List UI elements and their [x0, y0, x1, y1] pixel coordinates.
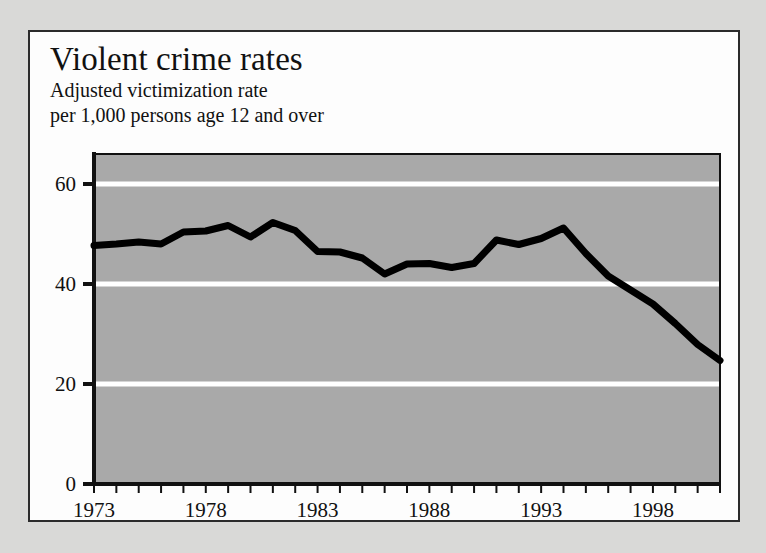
y-axis-tick-labels: 0204060 [55, 172, 76, 496]
figure-card: Violent crime rates Adjusted victimizati… [28, 30, 740, 522]
x-tick-label: 1988 [408, 498, 450, 522]
plot-area: 0204060 197319781983198819931998 [30, 32, 742, 524]
x-tick-label: 1973 [73, 498, 115, 522]
x-tick-label: 1993 [520, 498, 562, 522]
y-tick-label: 20 [55, 372, 76, 396]
x-tick-label: 1998 [632, 498, 674, 522]
y-tick-label: 60 [55, 172, 76, 196]
x-tick-label: 1983 [297, 498, 339, 522]
y-tick-label: 0 [66, 472, 77, 496]
plot-background [94, 154, 720, 484]
x-tick-label: 1978 [185, 498, 227, 522]
y-tick-label: 40 [55, 272, 76, 296]
x-axis-tick-labels: 197319781983198819931998 [73, 498, 674, 522]
